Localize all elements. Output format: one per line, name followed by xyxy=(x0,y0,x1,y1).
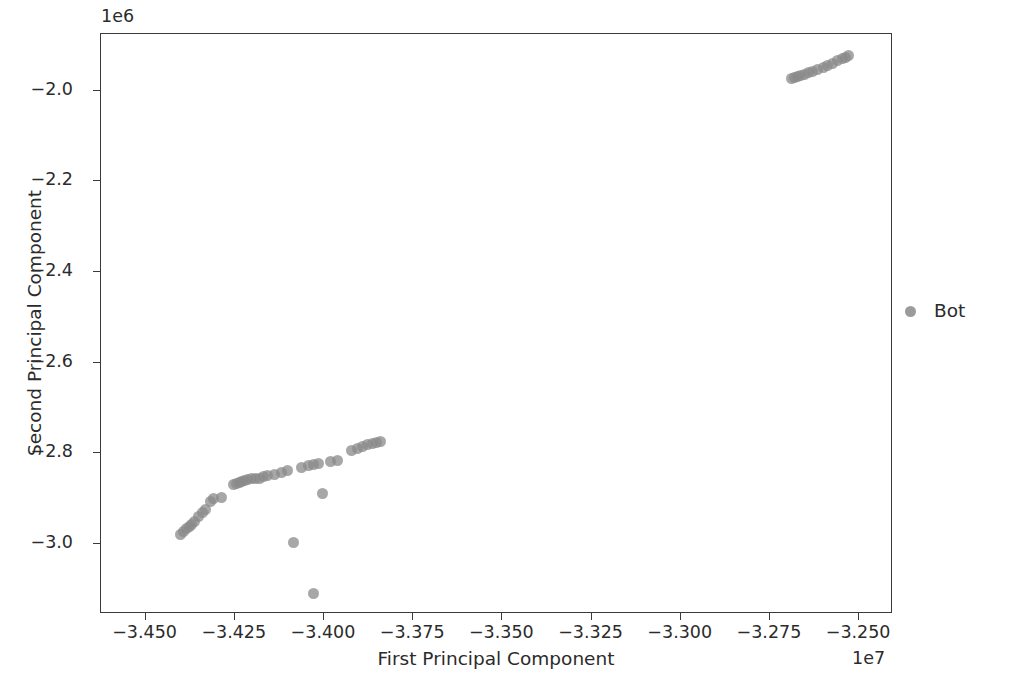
plot-area xyxy=(100,33,892,613)
y-axis-tick xyxy=(93,271,100,272)
y-axis-tick xyxy=(93,543,100,544)
x-axis-tick xyxy=(234,613,235,620)
x-axis-title: First Principal Component xyxy=(100,648,892,670)
x-axis-tick xyxy=(145,613,146,620)
data-point xyxy=(288,537,299,548)
x-axis-tick xyxy=(412,613,413,620)
data-point xyxy=(216,492,227,503)
legend-label-bot: Bot xyxy=(934,300,965,322)
legend: Bot xyxy=(905,300,965,322)
scatter-plot-figure: 1e6 −2.0−2.2−2.4−2.6−2.8−3.0−3.450−3.425… xyxy=(0,0,1019,684)
x-axis-tick xyxy=(858,613,859,620)
legend-circle-marker-icon xyxy=(905,306,916,317)
y-axis-tick xyxy=(93,180,100,181)
y-axis-offset-label: 1e6 xyxy=(101,6,134,26)
x-axis-offset-label: 1e7 xyxy=(852,648,885,668)
y-axis-tick xyxy=(93,90,100,91)
x-axis-tick xyxy=(591,613,592,620)
y-axis-tick xyxy=(93,452,100,453)
data-point xyxy=(375,436,386,447)
data-point xyxy=(313,458,324,469)
x-axis-tick xyxy=(323,613,324,620)
data-points-layer xyxy=(101,34,891,612)
data-point xyxy=(317,488,328,499)
x-axis-tick xyxy=(769,613,770,620)
y-axis-tick xyxy=(93,362,100,363)
x-axis-tick xyxy=(501,613,502,620)
x-axis-tick-label: −3.250 xyxy=(803,622,913,642)
x-axis-tick xyxy=(680,613,681,620)
data-point xyxy=(332,455,343,466)
y-axis-title: Second Principal Component xyxy=(22,33,48,613)
data-point xyxy=(282,465,293,476)
data-point xyxy=(843,50,854,61)
data-point xyxy=(308,588,319,599)
